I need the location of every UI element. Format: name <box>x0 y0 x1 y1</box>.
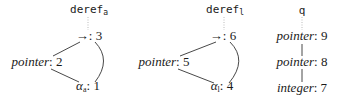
node-pointer-2: pointer: 2 <box>12 55 63 69</box>
edge-pointer5-alpha4 <box>178 69 214 83</box>
node-pointer-8: pointer: 8 <box>277 55 328 69</box>
node-pointer-5: pointer: 5 <box>139 55 190 69</box>
root-deref-l: derefl <box>206 3 244 20</box>
node-arrow-3: →: 3 <box>76 29 102 43</box>
node-pointer-9: pointer: 9 <box>277 29 328 43</box>
node-arrow-6: →: 6 <box>210 29 236 43</box>
node-alpha-4: αl: 4 <box>211 79 233 97</box>
root-q: q <box>299 4 306 18</box>
edge-arrow6-alpha4-curve <box>229 42 239 83</box>
edge-pointer2-alpha1 <box>51 69 79 82</box>
root-deref-a: derefa <box>70 3 108 20</box>
node-alpha-1: αa: 1 <box>76 79 100 97</box>
node-integer-7: integer: 7 <box>277 81 327 95</box>
edge-arrow3-alpha1-curve <box>95 42 104 82</box>
